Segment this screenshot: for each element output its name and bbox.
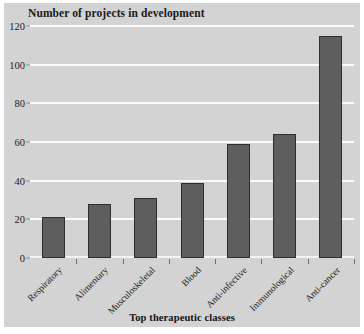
x-axis-tick-mark: [123, 259, 124, 264]
y-axis-tick-mark: [26, 142, 30, 143]
bar-respiratory: [42, 217, 65, 258]
y-axis-tick-mark: [26, 258, 30, 259]
y-axis-tick-label: 0: [20, 253, 25, 264]
gridline: [30, 180, 354, 182]
chart-title: Number of projects in development: [28, 7, 205, 19]
y-axis-tick-mark: [26, 64, 30, 65]
bar-blood: [181, 183, 204, 258]
bar-immunological: [273, 134, 296, 258]
gridline: [30, 141, 354, 143]
y-axis-tick-label: 120: [9, 21, 25, 32]
y-axis-tick-label: 80: [15, 98, 26, 109]
y-axis-tick-label: 40: [15, 175, 26, 186]
y-axis-tick-mark: [26, 26, 30, 27]
y-axis-tick-mark: [26, 180, 30, 181]
x-axis-tick-mark: [261, 259, 262, 264]
x-axis-title: Top therapeutic classes: [0, 312, 364, 323]
y-axis-tick-label: 20: [15, 214, 26, 225]
x-axis-tick-mark: [76, 259, 77, 264]
y-axis-tick-label: 100: [9, 59, 25, 70]
chart-figure: Number of projects in development 020406…: [0, 0, 364, 334]
plot-area: 020406080100120RespiratoryAlimentaryMusc…: [30, 26, 354, 258]
y-axis-tick-mark: [26, 219, 30, 220]
y-axis-tick-mark: [26, 103, 30, 104]
bar-anti-cancer: [319, 36, 342, 258]
bar-anti-infective: [227, 144, 250, 258]
y-axis-tick-label: 60: [15, 137, 26, 148]
gridline: [30, 102, 354, 104]
bar-musculoskeletal: [134, 198, 157, 258]
bar-alimentary: [88, 204, 111, 258]
gridline: [30, 25, 354, 27]
gridline: [30, 64, 354, 66]
